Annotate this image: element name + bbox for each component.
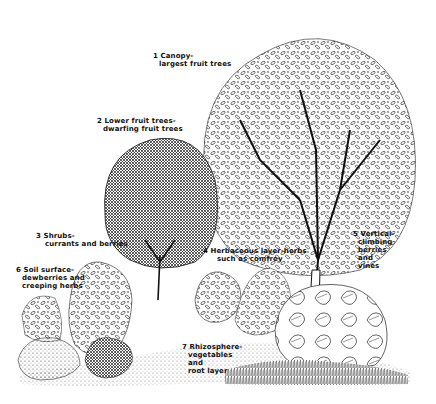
comfrey-herbs: [195, 272, 241, 323]
label-canopy: 1 Canopy- largest fruit trees: [153, 52, 231, 68]
forest-garden-illustration: 1 Canopy- largest fruit trees 2 Lower fr…: [0, 0, 436, 404]
label-soil-l2: dewberries and: [16, 274, 85, 282]
label-canopy-desc: largest fruit trees: [153, 60, 231, 68]
label-rhizosphere: 7 Rhizosphere- vegetables and root layer: [182, 343, 242, 375]
label-vertical: 5 Vertical- climbing berries and vines: [353, 230, 395, 270]
label-herbaceous-desc: such as comfrey: [203, 255, 307, 263]
label-canopy-title: 1 Canopy-: [153, 52, 231, 60]
label-vertical-title: 5 Vertical-: [353, 230, 395, 238]
label-soil-title: 6 Soil surface-: [16, 266, 85, 274]
label-vertical-l3: berries: [353, 246, 395, 254]
soil-mound: [18, 338, 80, 380]
label-lower-fruit-desc: dwarfing fruit trees: [97, 125, 183, 133]
label-rhizosphere-l2: vegetables: [182, 351, 242, 359]
label-vertical-l5: vines: [353, 262, 395, 270]
label-shrubs-title: 3 Shrubs-: [36, 232, 128, 240]
label-soil-surface: 6 Soil surface- dewberries and creeping …: [16, 266, 85, 290]
climbing-vines: [275, 284, 387, 370]
label-rhizosphere-title: 7 Rhizosphere-: [182, 343, 242, 351]
label-soil-l3: creeping herbs: [16, 282, 85, 290]
label-shrubs-desc: currants and berries: [36, 240, 128, 248]
label-vertical-l4: and: [353, 254, 395, 262]
label-herbaceous: 4 Herbaceous layer-herbs such as comfrey: [203, 247, 307, 263]
label-lower-fruit-title: 2 Lower fruit trees-: [97, 117, 183, 125]
label-lower-fruit-trees: 2 Lower fruit trees- dwarfing fruit tree…: [97, 117, 183, 133]
label-shrubs: 3 Shrubs- currants and berries: [36, 232, 128, 248]
label-vertical-l2: climbing: [353, 238, 395, 246]
creeping-herbs: [22, 296, 62, 342]
label-rhizosphere-l4: root layer: [182, 367, 242, 375]
label-herbaceous-title: 4 Herbaceous layer-herbs: [203, 247, 307, 255]
label-rhizosphere-l3: and: [182, 359, 242, 367]
